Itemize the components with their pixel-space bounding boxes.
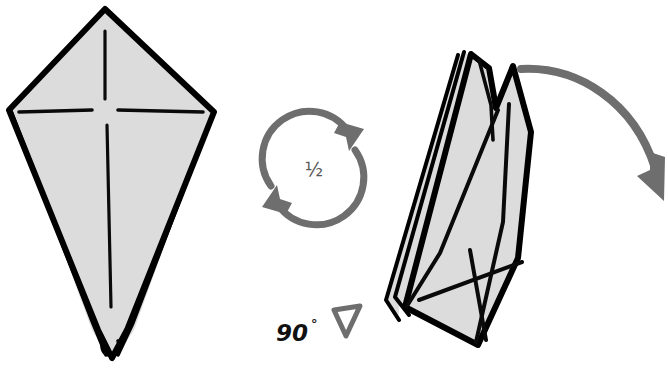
figure-kite-base	[9, 9, 214, 358]
origami-diagram: ½ 90 °	[0, 0, 668, 377]
diagram-canvas: ½ 90 °	[0, 0, 668, 377]
degree-symbol-label: °	[311, 316, 318, 331]
turn-over-triangle-icon	[334, 306, 360, 336]
rotate-half-label: ½	[305, 158, 323, 180]
fold-arrowhead	[637, 152, 665, 201]
rotate-arrowhead-lower	[262, 185, 292, 214]
symbol-fold-arrow	[521, 69, 665, 201]
symbol-turn-over: 90 °	[276, 306, 360, 346]
kite-horizontal-crease-right	[118, 110, 203, 112]
kite-horizontal-crease-left	[19, 110, 92, 112]
fold-arrow-curve	[521, 69, 655, 168]
symbol-rotate-half: ½	[262, 111, 364, 225]
figure-folded-form	[386, 52, 531, 345]
angle-label: 90	[276, 320, 308, 346]
rotate-arrowhead-upper	[334, 122, 364, 151]
